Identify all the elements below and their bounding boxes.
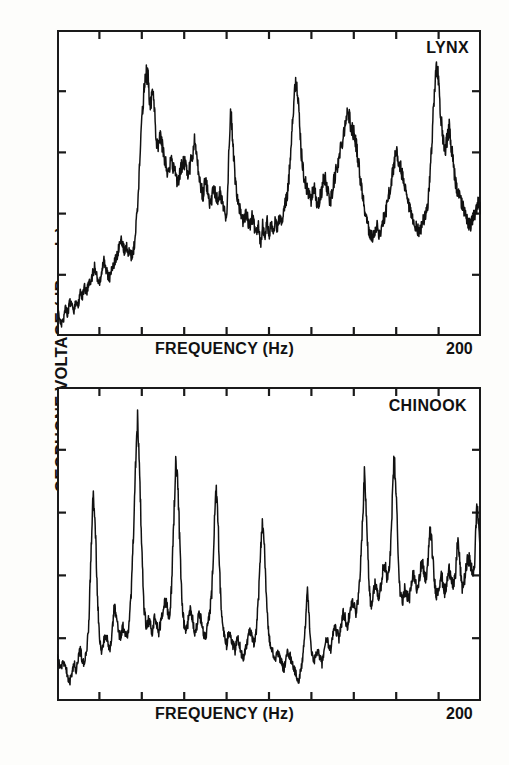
panel-lynx: LYNX <box>57 30 481 336</box>
spectrum-figure: GEOPHONE VOLTAGE (dB scale) LYNX FREQUEN… <box>0 0 509 765</box>
x-max-label-chinook: 200 <box>446 705 473 723</box>
x-axis-title-chinook: FREQUENCY (Hz) <box>155 705 294 723</box>
panel-label-chinook: CHINOOK <box>389 397 467 415</box>
plot-area-chinook <box>57 387 481 701</box>
panel-chinook: CHINOOK <box>57 387 481 701</box>
plot-area-lynx <box>57 30 481 336</box>
panel-label-lynx: LYNX <box>426 39 469 57</box>
x-max-label-lynx: 200 <box>446 340 473 358</box>
x-axis-title-lynx: FREQUENCY (Hz) <box>155 340 294 358</box>
